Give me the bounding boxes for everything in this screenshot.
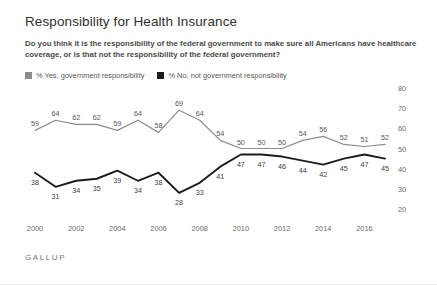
value-label-yes-2003: 62 bbox=[93, 113, 101, 122]
legend-label-yes: % Yes, government responsibility bbox=[36, 71, 144, 80]
value-label-no-2014: 42 bbox=[319, 170, 327, 179]
value-label-yes-2004: 59 bbox=[113, 119, 121, 128]
y-tick-80: 80 bbox=[398, 84, 406, 93]
value-label-no-2016: 47 bbox=[360, 160, 368, 169]
y-tick-70: 70 bbox=[398, 104, 406, 113]
chart-legend: % Yes, government responsibility % No, n… bbox=[25, 71, 287, 80]
value-label-no-2006: 38 bbox=[155, 178, 163, 187]
y-tick-20: 20 bbox=[398, 205, 406, 214]
value-label-yes-2016: 51 bbox=[360, 135, 368, 144]
value-label-no-2015: 45 bbox=[340, 164, 348, 173]
value-label-no-2013: 44 bbox=[299, 166, 307, 175]
series-line-no bbox=[35, 155, 385, 193]
y-tick-60: 60 bbox=[398, 124, 406, 133]
legend-swatch-no bbox=[157, 72, 164, 79]
value-label-yes-2005: 64 bbox=[134, 109, 142, 118]
x-tick-2000: 2000 bbox=[27, 224, 43, 233]
y-tick-30: 30 bbox=[398, 185, 406, 194]
value-label-yes-2006: 58 bbox=[155, 121, 163, 130]
value-label-no-2001: 31 bbox=[52, 192, 60, 201]
page-title: Responsibility for Health Insurance bbox=[25, 14, 237, 29]
legend-swatch-yes bbox=[25, 72, 32, 79]
value-label-yes-2012: 50 bbox=[278, 138, 286, 147]
value-label-yes-2010: 50 bbox=[237, 138, 245, 147]
value-label-no-2012: 46 bbox=[278, 162, 286, 171]
x-tick-2002: 2002 bbox=[68, 224, 84, 233]
legend-item-no: % No, not government responsibility bbox=[157, 71, 286, 80]
value-label-yes-2014: 56 bbox=[319, 125, 327, 134]
value-label-yes-2001: 64 bbox=[52, 109, 60, 118]
value-label-yes-2000: 59 bbox=[31, 119, 39, 128]
x-tick-2014: 2014 bbox=[315, 224, 331, 233]
x-tick-2012: 2012 bbox=[274, 224, 290, 233]
x-tick-2008: 2008 bbox=[191, 224, 207, 233]
value-label-no-2008: 33 bbox=[196, 188, 204, 197]
chart-subtitle: Do you think it is the responsibility of… bbox=[25, 38, 417, 60]
value-label-yes-2009: 54 bbox=[216, 129, 224, 138]
series-line-yes bbox=[35, 110, 385, 148]
value-label-yes-2013: 54 bbox=[299, 129, 307, 138]
value-label-no-2004: 39 bbox=[113, 176, 121, 185]
value-label-yes-2007: 69 bbox=[175, 99, 183, 108]
y-tick-50: 50 bbox=[398, 145, 406, 154]
value-label-no-2003: 35 bbox=[93, 184, 101, 193]
y-tick-40: 40 bbox=[398, 165, 406, 174]
value-label-yes-2002: 62 bbox=[72, 113, 80, 122]
value-label-no-2002: 34 bbox=[72, 186, 80, 195]
x-axis: 200020022004200620082010201220142016 bbox=[18, 224, 398, 238]
x-tick-2006: 2006 bbox=[150, 224, 166, 233]
value-label-no-2017: 45 bbox=[381, 164, 389, 173]
value-label-no-2011: 47 bbox=[257, 160, 265, 169]
gallup-brand: GALLUP bbox=[25, 253, 66, 262]
x-tick-2004: 2004 bbox=[109, 224, 125, 233]
y-axis: 80706050403020 bbox=[398, 86, 434, 214]
x-tick-2016: 2016 bbox=[356, 224, 372, 233]
value-label-no-2010: 47 bbox=[237, 160, 245, 169]
chart-card: Responsibility for Health Insurance Do y… bbox=[0, 0, 437, 285]
value-label-yes-2008: 64 bbox=[196, 109, 204, 118]
value-label-no-2009: 41 bbox=[216, 172, 224, 181]
value-label-yes-2017: 52 bbox=[381, 133, 389, 142]
value-label-no-2007: 28 bbox=[175, 198, 183, 207]
x-tick-2010: 2010 bbox=[233, 224, 249, 233]
value-label-no-2000: 38 bbox=[31, 178, 39, 187]
legend-item-yes: % Yes, government responsibility bbox=[25, 71, 144, 80]
legend-label-no: % No, not government responsibility bbox=[168, 71, 286, 80]
value-label-yes-2015: 52 bbox=[340, 133, 348, 142]
value-label-yes-2011: 50 bbox=[257, 138, 265, 147]
value-label-no-2005: 34 bbox=[134, 186, 142, 195]
